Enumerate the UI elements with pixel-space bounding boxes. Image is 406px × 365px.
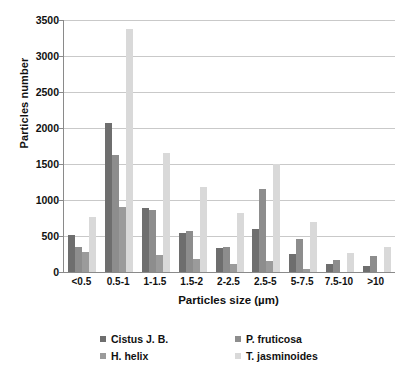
bar-group [358,20,395,272]
legend-item[interactable]: Cistus J. B. [100,333,235,345]
legend-swatch-icon [100,353,106,359]
x-axis-tick-label: 2.5-5 [247,276,284,287]
plot-area [63,20,395,273]
bar[interactable] [142,208,149,272]
bar[interactable] [119,207,126,272]
bar[interactable] [347,253,354,272]
legend-swatch-icon [235,353,241,359]
bar[interactable] [163,153,170,272]
bar-group [138,20,175,272]
bar-group [321,20,358,272]
bar[interactable] [105,123,112,272]
bar[interactable] [179,233,186,272]
x-axis-tick-label: <0.5 [63,276,100,287]
bar-group [64,20,101,272]
bar[interactable] [75,247,82,272]
y-axis-tick-label: 3500 [19,15,59,26]
bar-group [174,20,211,272]
bar[interactable] [186,231,193,272]
y-axis-tick-label: 1000 [19,195,59,206]
bar[interactable] [126,29,133,272]
bar-group [285,20,322,272]
bar[interactable] [216,248,223,272]
legend-item[interactable]: P. fruticosa [235,333,340,345]
legend-label: Cistus J. B. [111,333,168,345]
bar[interactable] [384,247,391,272]
bars-layer [64,20,395,272]
bar[interactable] [68,235,75,272]
bar[interactable] [310,222,317,272]
bar[interactable] [200,187,207,272]
x-axis-tick-label: 5-7.5 [284,276,321,287]
bar[interactable] [363,266,370,272]
x-axis-tick-label: 7.5-10 [320,276,357,287]
bar[interactable] [303,269,310,272]
bar[interactable] [223,247,230,272]
bar[interactable] [237,213,244,272]
y-axis-tick-label: 2000 [19,123,59,134]
x-axis-tick-label: 1-1.5 [137,276,174,287]
y-axis-tick-label: 0 [19,267,59,278]
legend-label: P. fruticosa [246,333,302,345]
bar[interactable] [230,264,237,272]
bar[interactable] [370,256,377,272]
bar[interactable] [193,259,200,272]
legend-swatch-icon [235,336,241,342]
bar-group [211,20,248,272]
legend-item[interactable]: H. helix [100,350,235,362]
chart-legend: Cistus J. B.P. fruticosaH. helixT. jasmi… [100,330,340,364]
legend-swatch-icon [100,336,106,342]
bar[interactable] [259,189,266,272]
legend-label: H. helix [111,350,148,362]
x-axis-title: Particles size (µm) [63,294,394,306]
y-axis-tick-label: 1500 [19,159,59,170]
bar-chart-figure: Particles number 05001000150020002500300… [0,0,406,365]
legend-label: T. jasminoides [246,350,318,362]
bar[interactable] [273,164,280,272]
bar[interactable] [252,229,259,272]
bar[interactable] [82,252,89,272]
bar[interactable] [266,261,273,272]
x-axis-tick-labels: <0.50.5-11-1.51.5-22-2.52.5-55-7.57.5-10… [63,276,394,287]
bar-group [248,20,285,272]
bar[interactable] [326,264,333,272]
bar[interactable] [333,260,340,272]
legend-item[interactable]: T. jasminoides [235,350,340,362]
y-axis-tick-label: 3000 [19,51,59,62]
x-axis-tick-label: 2-2.5 [210,276,247,287]
x-axis-tick-label: 1.5-2 [173,276,210,287]
x-axis-tick-label: 0.5-1 [100,276,137,287]
bar[interactable] [89,217,96,272]
bar[interactable] [156,255,163,272]
bar[interactable] [296,239,303,272]
y-axis-tick-label: 500 [19,231,59,242]
x-axis-tick-label: >10 [357,276,394,287]
bar[interactable] [289,254,296,272]
bar[interactable] [149,210,156,272]
bar-group [101,20,138,272]
y-axis-tick-label: 2500 [19,87,59,98]
bar[interactable] [112,155,119,272]
